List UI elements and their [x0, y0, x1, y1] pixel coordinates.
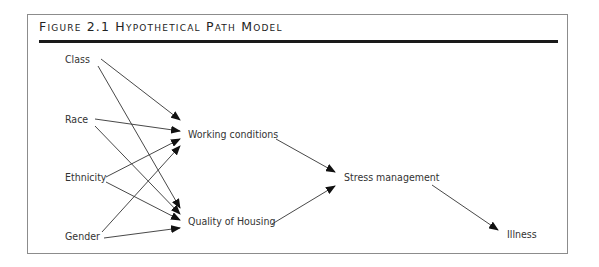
node-working-conditions: Working conditions: [188, 128, 278, 141]
node-gender: Gender: [65, 230, 100, 243]
node-class: Class: [65, 53, 90, 66]
edge-gender-housing: [104, 228, 180, 238]
node-illness: Illness: [507, 228, 537, 241]
edge-working-stress: [276, 139, 335, 172]
node-race: Race: [65, 113, 88, 126]
edge-class-working: [101, 59, 180, 120]
edge-race-housing: [95, 126, 180, 214]
node-quality-of-housing: Quality of Housing: [188, 215, 275, 228]
path-diagram: [0, 0, 599, 267]
edge-class-housing: [98, 66, 180, 208]
edge-stress-illness: [432, 185, 498, 230]
edge-housing-stress: [272, 186, 335, 224]
node-stress-management: Stress management: [344, 171, 439, 184]
node-ethnicity: Ethnicity: [65, 171, 106, 184]
edge-ethnicity-housing: [106, 182, 180, 220]
edge-race-working: [95, 119, 180, 131]
